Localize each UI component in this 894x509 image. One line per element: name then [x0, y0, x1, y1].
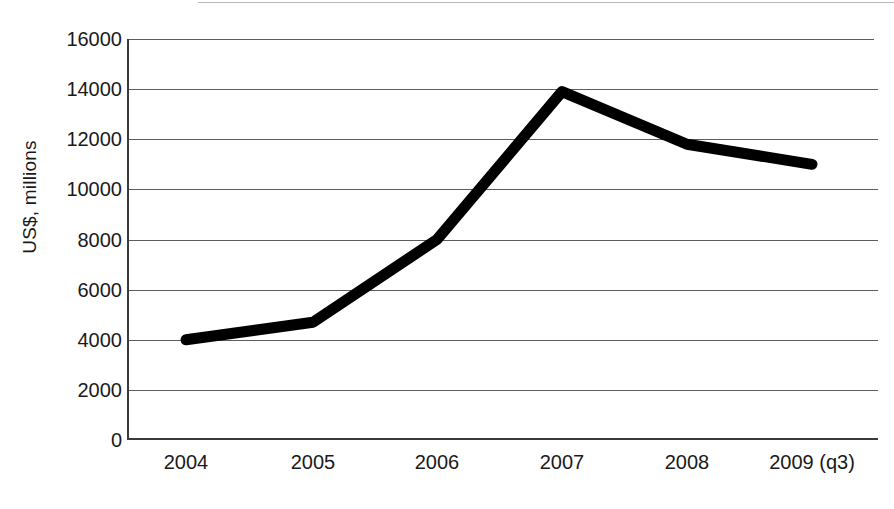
series-line-group — [127, 39, 878, 440]
y-axis-tick-label-group: 1600014000120001000080006000400020000 — [0, 0, 122, 509]
line-chart-figure: US$, millions 16000140001200010000800060… — [0, 0, 894, 509]
y-axis-tick-label: 4000 — [0, 330, 122, 350]
x-axis-tick-label-group: 200420052006200720082009 (q3) — [0, 452, 894, 492]
y-axis-tick-label: 10000 — [0, 179, 122, 199]
series-line-us-dollars-millions — [186, 92, 812, 340]
x-axis-tick-label: 2006 — [415, 452, 460, 472]
x-axis-tick-label: 2009 (q3) — [769, 452, 855, 472]
y-axis-tick-label: 6000 — [0, 280, 122, 300]
y-axis-tick-label: 2000 — [0, 380, 122, 400]
y-axis-tick-label: 0 — [0, 430, 122, 450]
x-axis-tick-label: 2005 — [291, 452, 336, 472]
page-top-rule — [198, 2, 894, 3]
x-axis-tick-label: 2007 — [540, 452, 585, 472]
y-axis-tick-label: 16000 — [0, 29, 122, 49]
x-axis-tick-label: 2008 — [665, 452, 710, 472]
y-axis-tick-label: 14000 — [0, 79, 122, 99]
plot-area — [127, 39, 878, 440]
y-axis-tick-label: 8000 — [0, 230, 122, 250]
y-axis-tick-label: 12000 — [0, 129, 122, 149]
x-axis-tick-label: 2004 — [164, 452, 209, 472]
